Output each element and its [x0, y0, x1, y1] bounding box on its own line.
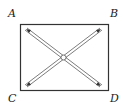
rectangle-diagram: A B C D	[0, 0, 123, 107]
label-a: A	[8, 8, 16, 19]
label-b: B	[110, 8, 118, 19]
center-circle	[61, 55, 66, 60]
label-d: D	[110, 93, 119, 104]
label-c: C	[8, 93, 16, 104]
diagram-svg	[0, 0, 123, 107]
